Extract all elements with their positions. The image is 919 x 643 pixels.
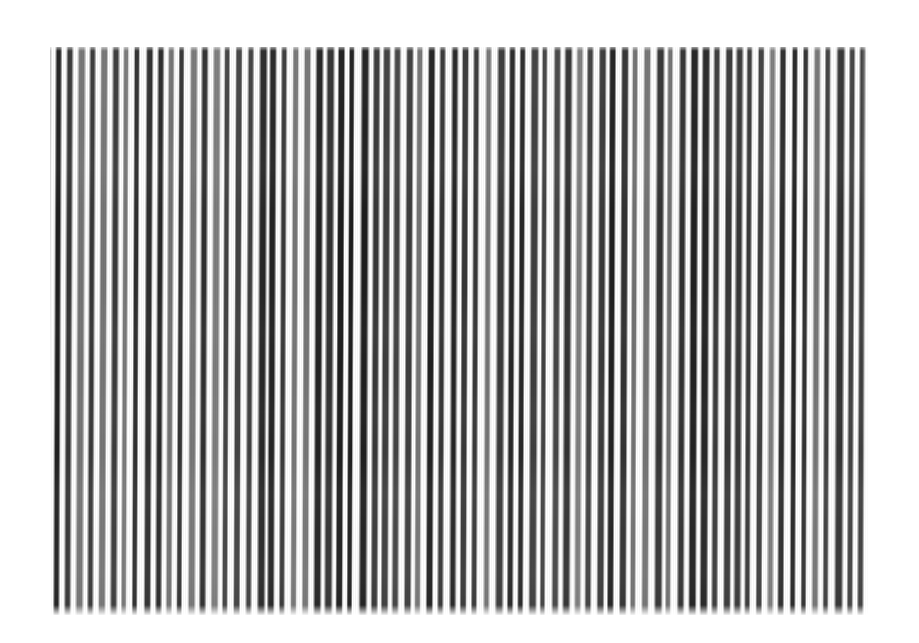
bottom-edge-fade bbox=[50, 605, 868, 615]
horizontal-sheen-bands bbox=[50, 47, 868, 615]
striped-pattern-photo bbox=[50, 47, 868, 615]
left-edge-fade bbox=[50, 47, 54, 615]
right-edge-fade bbox=[862, 47, 868, 615]
top-edge-fade bbox=[50, 47, 868, 51]
image-canvas bbox=[0, 0, 919, 643]
